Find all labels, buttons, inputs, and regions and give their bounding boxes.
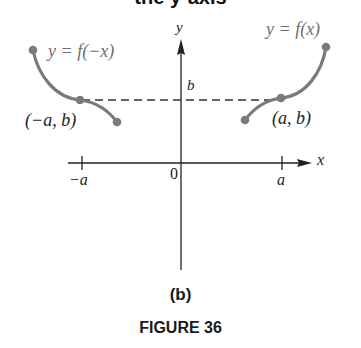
dot-neg-a-b <box>76 96 85 105</box>
label-f-neg-x: y = f(−x) <box>48 42 114 60</box>
dot-left-end <box>113 118 122 127</box>
dot-right-end <box>322 43 331 52</box>
x-axis-label: x <box>317 152 324 168</box>
subfigure-caption: (b) <box>0 286 361 303</box>
figure-stage: the y-axis y y = f(x) y = f(−x) b (−a, b… <box>0 0 361 348</box>
y-axis-label: y <box>176 20 183 35</box>
dot-right-start <box>241 116 250 125</box>
tick-label-a: a <box>277 172 285 188</box>
b-marker-label: b <box>187 78 195 93</box>
origin-label: 0 <box>170 166 178 182</box>
figure-caption: FIGURE 36 <box>0 320 361 336</box>
x-axis-arrow-icon <box>297 159 312 167</box>
y-axis-arrow-icon <box>177 39 185 55</box>
label-a-b: (a, b) <box>272 109 311 127</box>
label-f-x: y = f(x) <box>266 20 320 38</box>
dot-a-b <box>277 94 286 103</box>
dot-left-start <box>29 46 38 55</box>
label-neg-a-b: (−a, b) <box>25 111 76 129</box>
tick-label-neg-a: −a <box>69 172 88 188</box>
